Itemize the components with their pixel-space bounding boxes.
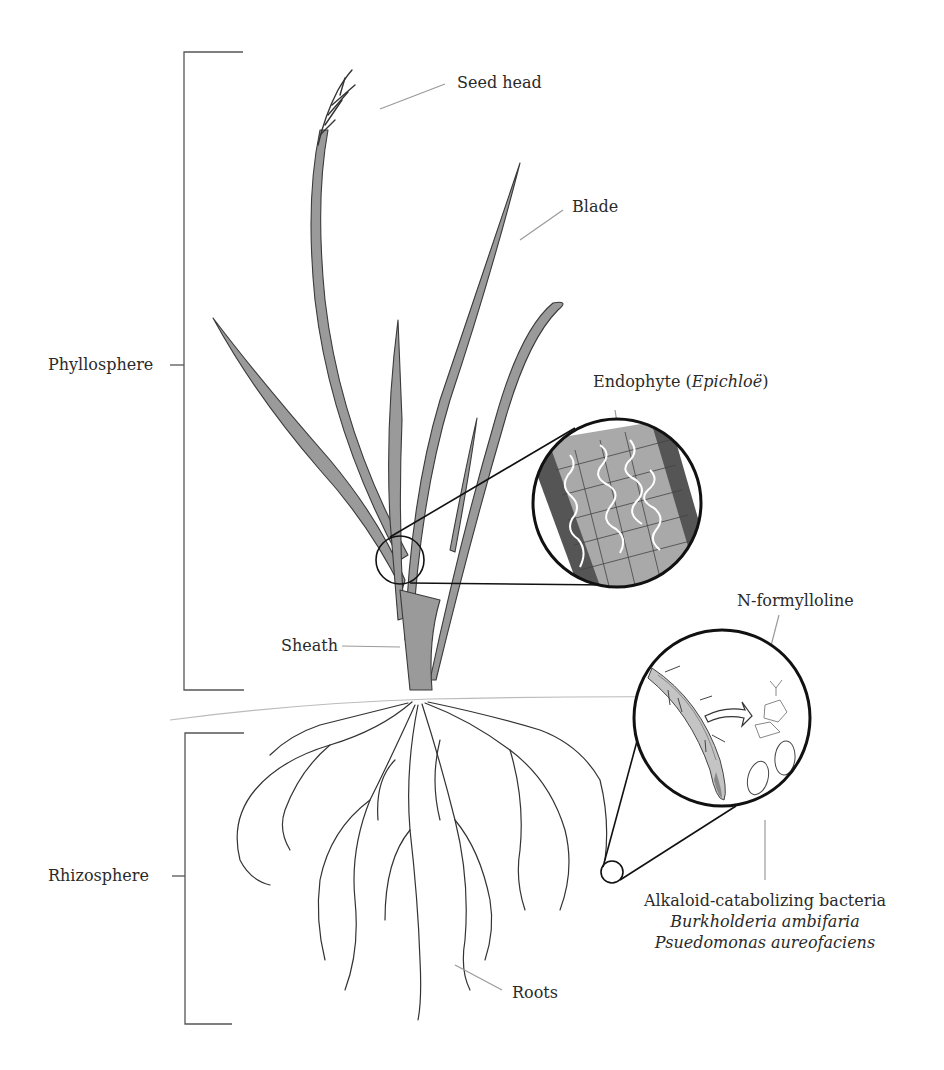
endophyte-prefix: Endophyte ( (593, 372, 692, 391)
endophyte-genus: Epichloë (692, 372, 763, 391)
roots-label: Roots (512, 985, 558, 1001)
blade-label: Blade (572, 199, 618, 215)
bacteria-title: Alkaloid-catabolizing bacteria (620, 890, 910, 911)
n-formylloline-label: N-formylloline (737, 593, 854, 609)
rhizosphere-magnifier (634, 630, 810, 806)
endophyte-label: Endophyte (Epichloë) (593, 374, 768, 390)
phyllosphere-label: Phyllosphere (48, 357, 153, 373)
phyllosphere-bracket (170, 52, 244, 690)
bacteria-label: Alkaloid-catabolizing bacteria Burkholde… (620, 890, 910, 953)
roots-drawing (237, 702, 607, 1020)
endophyte-magnifier (528, 414, 710, 605)
rhizosphere-label: Rhizosphere (48, 868, 149, 884)
endophyte-suffix: ) (762, 372, 768, 391)
ground-line (170, 697, 700, 720)
grass-leaves (213, 130, 563, 690)
bacteria-species-2: Psuedomonas aureofaciens (620, 932, 910, 953)
sheath-label: Sheath (281, 638, 338, 654)
rhizosphere-bracket (172, 733, 244, 1024)
bacteria-species-1: Burkholderia ambifaria (620, 911, 910, 932)
seed-head-label: Seed head (457, 75, 542, 91)
